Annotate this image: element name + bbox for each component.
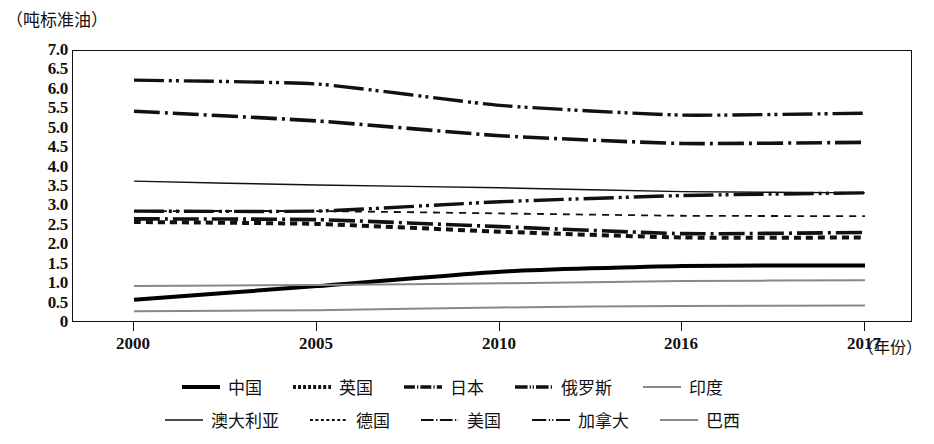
legend-item-加拿大[interactable]: 加拿大 [531,407,659,432]
x-tick-label: 2000 [116,334,150,354]
legend-item-label: 澳大利亚 [211,407,279,432]
series-line-巴西 [134,306,865,312]
y-tick-label: 4.5 [48,137,68,157]
series-line-英国 [134,222,865,238]
y-tick-label: 5.5 [48,98,68,118]
y-tick-label: 6.5 [48,59,68,79]
legend-item-印度[interactable]: 印度 [642,374,753,399]
y-tick-label: 0.5 [48,293,68,313]
series-layer [73,51,913,323]
y-tick-label: 1.0 [48,273,68,293]
x-tick-label: 2010 [482,334,516,354]
x-tick-mark [133,322,134,331]
legend-line-swatch [164,413,204,427]
legend-row-2: 澳大利亚德国美国加拿大巴西 [0,403,934,436]
legend: 中国英国日本俄罗斯印度 澳大利亚德国美国加拿大巴西 [0,370,934,436]
y-axis-unit-label: （吨标准油） [6,6,108,31]
legend-item-label: 日本 [450,374,484,399]
legend-line-swatch [309,413,349,427]
energy-per-capita-line-chart: （吨标准油） 7.06.56.05.55.04.54.03.53.02.52.0… [0,0,934,444]
y-tick-label: 1.5 [48,254,68,274]
y-tick-label: 6.0 [48,79,68,99]
x-tick-mark [681,322,682,331]
series-line-印度 [134,280,865,286]
legend-item-英国[interactable]: 英国 [292,374,403,399]
x-axis: （年份） 20002005201020162017 [0,322,934,362]
x-tick-label: 2005 [299,334,333,354]
x-tick-label: 2017 [847,334,881,354]
legend-item-巴西[interactable]: 巴西 [659,407,770,432]
legend-item-日本[interactable]: 日本 [403,374,514,399]
legend-item-德国[interactable]: 德国 [309,407,420,432]
legend-line-swatch [531,413,571,427]
legend-line-swatch [642,380,682,394]
legend-item-label: 美国 [467,407,501,432]
legend-item-label: 俄罗斯 [561,374,612,399]
legend-item-俄罗斯[interactable]: 俄罗斯 [514,374,642,399]
legend-item-中国[interactable]: 中国 [181,374,292,399]
legend-item-label: 中国 [228,374,262,399]
legend-item-label: 德国 [356,407,390,432]
series-line-德国 [134,211,865,216]
legend-item-label: 加拿大 [578,407,629,432]
y-tick-label: 2.5 [48,215,68,235]
legend-item-美国[interactable]: 美国 [420,407,531,432]
x-tick-mark [316,322,317,331]
series-line-加拿大 [134,80,865,115]
legend-line-swatch [181,380,221,394]
legend-line-swatch [514,380,554,394]
series-line-澳大利亚 [134,181,865,193]
y-axis: 7.06.56.05.55.04.54.03.53.02.52.01.51.00… [0,42,72,332]
y-tick-label: 3.0 [48,195,68,215]
y-tick-label: 5.0 [48,118,68,138]
legend-line-swatch [403,380,443,394]
x-tick-mark [864,322,865,331]
plot-area [72,50,912,322]
y-tick-label: 3.5 [48,176,68,196]
y-tick-label: 2.0 [48,234,68,254]
series-line-俄罗斯 [134,193,865,212]
y-tick-label: 4.0 [48,157,68,177]
legend-item-澳大利亚[interactable]: 澳大利亚 [164,407,309,432]
x-tick-label: 2016 [664,334,698,354]
legend-item-label: 印度 [689,374,723,399]
legend-item-label: 英国 [339,374,373,399]
legend-line-swatch [292,380,332,394]
legend-line-swatch [659,413,699,427]
y-tick-label: 7.0 [48,40,68,60]
legend-row-1: 中国英国日本俄罗斯印度 [0,370,934,403]
x-tick-mark [499,322,500,331]
legend-item-label: 巴西 [706,407,740,432]
legend-line-swatch [420,413,460,427]
